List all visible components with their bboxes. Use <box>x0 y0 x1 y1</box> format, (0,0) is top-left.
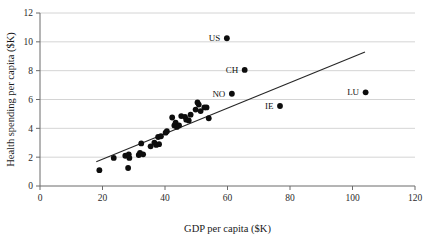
y-tick-label-6: 6 <box>28 95 33 105</box>
y-tick-label-10: 10 <box>24 37 34 47</box>
data-point-no <box>229 91 235 97</box>
x-tick-label-0: 0 <box>38 193 43 203</box>
data-point <box>111 155 117 161</box>
point-label-ch: CH <box>226 65 239 75</box>
data-point <box>188 112 194 118</box>
x-tick-label-120: 120 <box>408 193 423 203</box>
point-label-lu: LU <box>347 87 359 97</box>
y-tick-label-0: 0 <box>28 181 33 191</box>
data-point <box>193 107 199 113</box>
data-point <box>156 141 162 147</box>
data-point <box>176 123 182 129</box>
chart-plot-area: 024681012020406080100120USCHNOLUIEGDP pe… <box>0 0 430 237</box>
data-point <box>125 165 131 171</box>
x-tick-label-60: 60 <box>223 193 233 203</box>
data-point <box>169 115 175 121</box>
data-point <box>186 118 192 124</box>
point-label-no: NO <box>212 89 225 99</box>
data-point <box>126 155 132 161</box>
x-tick-label-80: 80 <box>285 193 295 203</box>
y-tick-label-12: 12 <box>24 8 34 18</box>
y-tick-label-2: 2 <box>28 153 33 163</box>
data-point <box>204 105 210 111</box>
scatter-chart-figure: 024681012020406080100120USCHNOLUIEGDP pe… <box>0 0 430 237</box>
data-point <box>196 102 202 108</box>
y-tick-label-8: 8 <box>28 66 33 76</box>
data-point-us <box>224 35 230 41</box>
x-tick-label-20: 20 <box>98 193 108 203</box>
data-point <box>140 151 146 157</box>
point-label-ie: IE <box>265 101 274 111</box>
data-point <box>96 167 102 173</box>
y-axis-title: Health spending per capita ($K) <box>5 32 17 167</box>
y-tick-label-4: 4 <box>28 124 33 134</box>
x-tick-label-100: 100 <box>345 193 360 203</box>
data-point <box>206 115 212 121</box>
data-point <box>164 128 170 134</box>
data-point-ch <box>242 67 248 73</box>
data-point <box>158 133 164 139</box>
point-label-us: US <box>209 33 221 43</box>
data-point <box>138 141 144 147</box>
x-axis-title: GDP per capita ($K) <box>184 223 271 235</box>
data-point-ie <box>277 103 283 109</box>
data-point-lu <box>363 89 369 95</box>
x-tick-label-40: 40 <box>160 193 170 203</box>
